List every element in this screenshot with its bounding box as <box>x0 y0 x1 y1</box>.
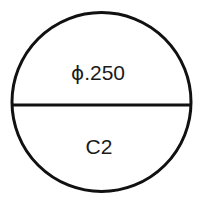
callout-label: C2 <box>86 136 113 157</box>
technical-drawing-canvas: ϕ.250 C2 <box>0 0 203 210</box>
outer-circle <box>12 13 191 192</box>
phi-symbol: ϕ <box>71 61 84 85</box>
diameter-label: ϕ.250 <box>71 62 125 83</box>
drawing-vector-layer <box>0 0 203 210</box>
diameter-value: .250 <box>84 61 125 84</box>
